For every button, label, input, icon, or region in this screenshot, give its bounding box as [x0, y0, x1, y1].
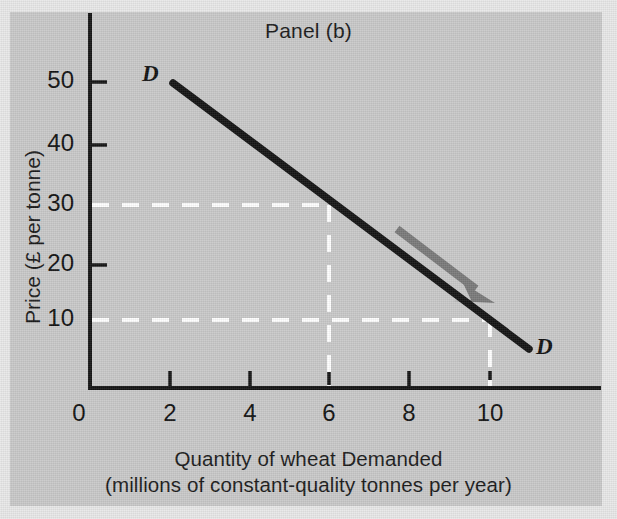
x-axis-label-line1: Quantity of wheat Demanded [0, 447, 617, 471]
x-tick-label-6: 6 [309, 399, 349, 427]
x-tick-label-10: 10 [470, 399, 510, 427]
x-tick-label-2: 2 [150, 399, 190, 427]
y-tick-label-40: 40 [22, 129, 74, 157]
x-tick-label-8: 8 [389, 399, 429, 427]
y-axis-ticks [90, 82, 107, 320]
demand-curve-D [173, 83, 529, 349]
figure-panel-b: Panel (b) Price (£ per tonne) 50 40 30 2… [0, 0, 617, 519]
reference-lines [92, 205, 492, 386]
y-tick-label-10: 10 [22, 304, 74, 332]
x-tick-label-0: 0 [59, 399, 99, 427]
y-tick-label-30: 30 [22, 189, 74, 217]
page-title: Panel (b) [0, 19, 617, 43]
axes [88, 13, 601, 389]
x-axis-label-line2: (millions of constant-quality tonnes per… [0, 473, 617, 497]
chart-plot-area [0, 0, 617, 519]
demand-curve-label-bottom: D [536, 334, 553, 360]
y-tick-label-50: 50 [22, 66, 74, 94]
demand-curve-label-top: D [142, 61, 159, 87]
x-tick-label-4: 4 [230, 399, 270, 427]
y-tick-label-20: 20 [22, 249, 74, 277]
